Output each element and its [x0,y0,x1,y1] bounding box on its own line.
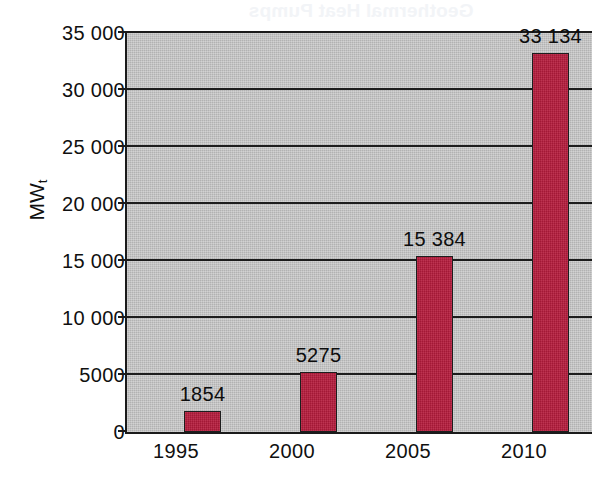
bar-value-label-2005: 15 384 [389,228,480,251]
gridline-5000 [127,373,592,375]
y-axis-title-base: MW [25,183,48,220]
y-tick-label-25000: 25 000 [62,136,125,159]
gridline-30000 [127,88,592,90]
y-tick-label-20000: 20 000 [62,193,125,216]
bar-2005[interactable] [416,256,453,432]
y-tick-label-5000: 5000 [79,364,125,387]
bar-value-label-2010: 33 134 [505,25,596,48]
bar-2010[interactable] [532,53,569,432]
tick-mark-25000 [118,145,127,147]
y-tick-label-10000: 10 000 [62,307,125,330]
tick-mark-0 [118,430,127,432]
gridline-20000 [127,202,592,204]
y-axis-title-subscript: t [35,180,50,184]
tick-mark-5000 [118,373,127,375]
x-tick-label-2005: 2005 [372,440,444,463]
gridline-10000 [127,316,592,318]
bar-1995[interactable] [184,411,221,432]
bar-2000[interactable] [300,372,337,432]
tick-mark-15000 [118,259,127,261]
bar-value-label-1995: 1854 [162,383,243,406]
tick-mark-10000 [118,316,127,318]
bar-chart: Geothermal Heat Pumps MWt 35 000 30 000 … [0,0,610,478]
y-tick-label-0: 0 [114,421,125,444]
tick-mark-20000 [118,202,127,204]
tick-mark-35000 [118,31,127,33]
bar-value-label-2000: 5275 [278,344,359,367]
x-tick-label-2010: 2010 [488,440,560,463]
y-axis-title: MWt [25,155,49,245]
plot-area: 1854 5275 15 384 33 134 [125,32,592,434]
y-tick-label-30000: 30 000 [62,79,125,102]
gridline-25000 [127,145,592,147]
x-tick-label-2000: 2000 [256,440,328,463]
bleed-through-ghost-text: Geothermal Heat Pumps [196,0,526,24]
y-tick-label-15000: 15 000 [62,250,125,273]
tick-mark-30000 [118,88,127,90]
gridline-15000 [127,259,592,261]
y-tick-label-35000: 35 000 [62,22,125,45]
x-tick-label-1995: 1995 [140,440,212,463]
